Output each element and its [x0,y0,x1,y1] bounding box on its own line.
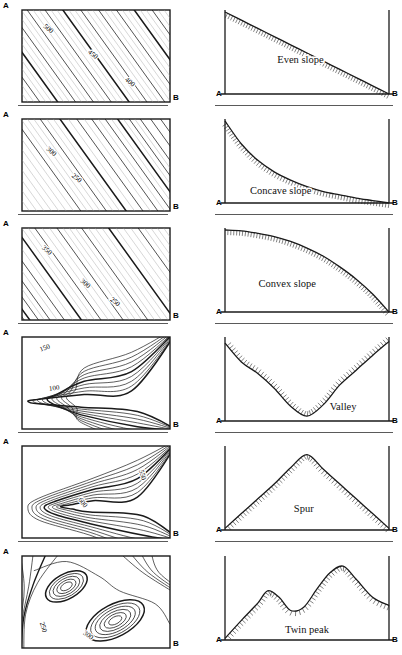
row-divider-right [215,105,393,106]
cross-section-even-slope: Even slopeEven slopeAB [205,0,402,109]
contour-map-convex-slope: 350350300300250250AB [0,218,195,327]
map-point-a-label: A [3,111,9,119]
profile-point-a-label: A [216,417,222,425]
row-divider-left [18,323,168,324]
svg-text:100: 100 [49,384,61,393]
profile-point-b-label: B [392,90,398,98]
svg-text:Concave slope: Concave slope [250,185,312,196]
profile-point-a-label: A [216,526,222,534]
map-point-a-label: A [3,220,9,228]
row-divider-left [18,432,168,433]
svg-text:Spur: Spur [294,503,314,514]
cross-section-spur: SpurSpurAB [205,436,402,545]
map-point-b-label: B [173,312,179,320]
profile-point-b-label: B [392,199,398,207]
svg-text:Even slope: Even slope [277,54,324,65]
contour-map-valley: 150150100100AB [0,327,195,436]
map-point-b-label: B [173,203,179,211]
cross-section-concave-slope: Concave slopeConcave slopeAB [205,109,402,218]
profile-point-b-label: B [392,636,398,644]
row-divider-left [18,105,168,106]
contour-map-twin-peak: 250250300300AB [0,546,195,655]
row-divider-left [18,214,168,215]
svg-text:Valley: Valley [330,401,358,412]
cross-section-convex-slope: Convex slopeConvex slopeAB [205,218,402,327]
cross-section-valley: ValleyValleyAB [205,327,402,436]
map-point-a-label: A [3,438,9,446]
row-divider-left [18,541,168,542]
svg-text:Convex slope: Convex slope [259,278,317,289]
profile-point-a-label: A [216,90,222,98]
profile-point-a-label: A [216,308,222,316]
figure-row-concave-slope: 300300250250ABConcave slopeConcave slope… [0,109,402,218]
profile-point-b-label: B [392,308,398,316]
profile-point-b-label: B [392,526,398,534]
map-point-b-label: B [173,530,179,538]
figure-row-valley: 150150100100ABValleyValleyAB [0,327,402,436]
map-point-b-label: B [173,640,179,648]
contour-map-spur: 550550600600AB [0,436,195,545]
map-point-b-label: B [173,421,179,429]
map-point-a-label: A [3,2,9,10]
row-divider-right [215,541,393,542]
profile-point-a-label: A [216,636,222,644]
figure-row-even-slope: 500500450450400400ABEven slopeEven slope… [0,0,402,109]
map-point-b-label: B [173,94,179,102]
profile-point-a-label: A [216,199,222,207]
row-divider-right [215,432,393,433]
row-divider-right [215,214,393,215]
svg-text:Twin peak: Twin peak [285,624,330,635]
figure-row-convex-slope: 350350300300250250ABConvex slopeConvex s… [0,218,402,327]
map-point-a-label: A [3,548,9,556]
profile-point-b-label: B [392,417,398,425]
row-divider-right [215,323,393,324]
contour-map-even-slope: 500500450450400400AB [0,0,195,109]
cross-section-twin-peak: Twin peakTwin peakAB [205,546,402,655]
figure-row-twin-peak: 250250300300ABTwin peakTwin peakAB [0,546,402,655]
map-point-a-label: A [3,329,9,337]
figure-row-spur: 550550600600ABSpurSpurAB [0,436,402,545]
contour-map-concave-slope: 300300250250AB [0,109,195,218]
